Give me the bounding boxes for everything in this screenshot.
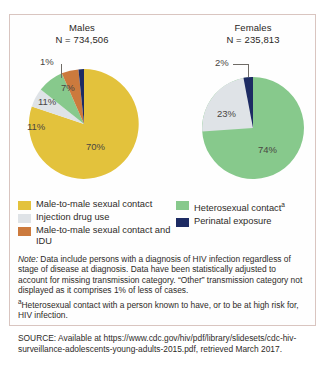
female-pie-svg (201, 76, 305, 180)
legend-item-perinatal-exposure: Perinatal exposure (176, 216, 316, 227)
legend-swatch-injection-drug-use (18, 214, 31, 223)
source-block: SOURCE: Available at https://www.cdc.gov… (18, 333, 310, 354)
legend-item-male-to-male-sexual-contact: Male-to-male sexual contact (18, 199, 178, 210)
legend-label-perinatal-exposure: Perinatal exposure (194, 216, 272, 227)
legend-label-injection-drug-use: Injection drug use (36, 212, 109, 223)
legend-label-mmsc-and-idu: Male-to-male sexual contact and IDU (36, 225, 178, 247)
legend-label-male-to-male: Male-to-male sexual contact (36, 199, 152, 210)
note-paragraph: Note: Data include persons with a diagno… (18, 254, 306, 296)
legend-swatch-mmsc-and-idu (18, 227, 31, 236)
note-footnote: aHeterosexual contact with a person know… (18, 297, 306, 321)
female-panel-n: N = 235,813 (190, 34, 316, 46)
legend-item-mmsc-and-idu: Male-to-male sexual contact and IDU (18, 225, 178, 247)
female-pie-chart (201, 76, 305, 180)
female-panel-heading: Females N = 235,813 (190, 22, 316, 45)
legend-item-heterosexual-contact: Heterosexual contacta (176, 199, 316, 214)
note-block: Note: Data include persons with a diagno… (18, 254, 306, 320)
legend-column-left: Male-to-male sexual contact Injection dr… (18, 199, 178, 249)
note-footnote-text: Heterosexual contact with a person known… (18, 299, 299, 319)
male-label-70: 70% (86, 141, 105, 152)
female-label-74: 74% (258, 144, 277, 155)
female-label-23: 23% (217, 108, 236, 119)
legend-swatch-male-to-male (18, 201, 31, 210)
male-label-7: 7% (61, 82, 75, 93)
legend-swatch-perinatal-exposure (176, 218, 189, 227)
male-label-11-idu: 11% (27, 121, 45, 132)
male-label-1: 1% (40, 56, 54, 67)
legend-footnote-marker: a (281, 201, 285, 208)
legend-item-injection-drug-use: Injection drug use (18, 212, 178, 223)
legend-column-right: Heterosexual contacta Perinatal exposure (176, 199, 316, 229)
legend-label-heterosexual-contact: Heterosexual contacta (194, 199, 285, 214)
male-panel-heading: Males N = 734,506 (22, 22, 142, 45)
female-label-2-leader-line-horizontal (233, 64, 249, 65)
male-panel-n: N = 734,506 (22, 34, 142, 46)
male-label-1-leader-line (61, 64, 62, 78)
female-panel-title: Females (190, 22, 316, 34)
legend-label-heterosexual-contact-text: Heterosexual contact (194, 203, 281, 213)
female-label-2-leader-line-vertical (248, 64, 249, 77)
male-label-11-het: 11% (38, 96, 56, 107)
legend-swatch-heterosexual-contact (176, 201, 189, 210)
male-panel-title: Males (22, 22, 142, 34)
figure-root: Males N = 734,506 Females N = 235,813 70… (0, 0, 325, 369)
female-label-2: 2% (215, 57, 229, 68)
note-body: Data include persons with a diagnosis of… (18, 254, 302, 295)
note-lead: Note: (18, 254, 38, 264)
